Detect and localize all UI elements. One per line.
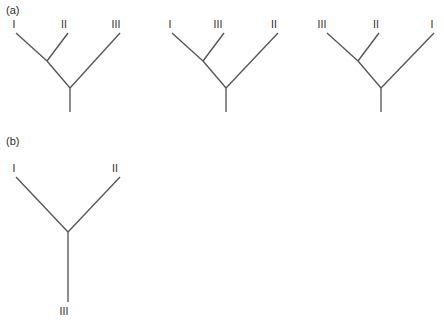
tree-a2: I III II [169,18,278,112]
taxon-label-II: II [271,18,277,30]
branch-taxon-III [327,33,358,61]
branch-taxon-II [68,177,120,232]
taxon-label-III: III [112,18,121,30]
branch-taxon-I [172,33,203,61]
panel-a-label: (a) [6,4,19,16]
taxon-label-III: III [318,18,327,30]
branch-taxon-III [203,33,224,61]
tree-b1: I II III [13,162,120,317]
panel-a: (a) I II III I III II [6,4,434,112]
taxon-label-I: I [13,18,16,30]
branch-taxon-II [226,33,278,88]
taxon-label-II: II [61,18,67,30]
taxon-label-I: I [169,18,172,30]
phylogenetic-tree-figure: (a) I II III I III II [0,0,444,324]
tree-a3: III II I [318,18,434,112]
branch-internal-node [203,61,226,88]
taxon-label-I: I [13,162,16,174]
branch-internal-node [358,61,381,88]
branch-taxon-I [381,33,434,88]
panel-b-label: (b) [6,135,19,147]
branch-taxon-I [16,33,47,61]
taxon-label-III: III [214,18,223,30]
branch-internal-node [47,61,70,88]
branch-taxon-II [358,33,379,61]
panel-b: (b) I II III [6,135,120,317]
branch-taxon-III [70,33,120,88]
branch-taxon-II [47,33,68,61]
branch-taxon-I [16,177,68,232]
tree-a1: I II III [13,18,121,112]
figure-container: (a) I II III I III II [0,0,444,324]
taxon-label-I: I [431,18,434,30]
taxon-label-II: II [112,162,118,174]
taxon-label-II: II [373,18,379,30]
taxon-label-III: III [60,305,69,317]
